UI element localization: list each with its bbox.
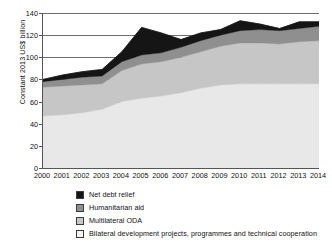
legend-item[interactable]: Humanitarian aid xyxy=(76,201,326,214)
legend-label: Humanitarian aid xyxy=(89,203,144,212)
y-tick-label: 80 xyxy=(0,75,38,84)
y-tick-label: 140 xyxy=(0,9,38,18)
y-tick-label: 60 xyxy=(0,98,38,107)
y-tick-label: 100 xyxy=(0,53,38,62)
legend-item[interactable]: Multilateral ODA xyxy=(76,214,326,227)
stacked-area-chart: Constant 2013 US$ billion 02040608010012… xyxy=(0,0,332,248)
series-areas xyxy=(43,13,319,168)
chart-legend: Net debt reliefHumanitarian aidMultilate… xyxy=(76,188,326,240)
legend-swatch-icon xyxy=(76,191,84,199)
x-tick-label: 2014 xyxy=(305,171,331,180)
x-axis-tick-labels: 2000200120022003200420052006200720082009… xyxy=(42,171,318,183)
legend-label: Net debt relief xyxy=(89,190,135,199)
legend-item[interactable]: Bilateral development projects, programm… xyxy=(76,227,326,240)
legend-swatch-icon xyxy=(76,204,84,212)
y-tick-label: 120 xyxy=(0,31,38,40)
legend-item[interactable]: Net debt relief xyxy=(76,188,326,201)
plot-area xyxy=(42,13,319,169)
y-tick-label: 20 xyxy=(0,142,38,151)
legend-swatch-icon xyxy=(76,217,84,225)
legend-label: Bilateral development projects, programm… xyxy=(89,229,317,238)
y-tick-label: 40 xyxy=(0,120,38,129)
legend-label: Multilateral ODA xyxy=(89,216,142,225)
legend-swatch-icon xyxy=(76,230,84,238)
